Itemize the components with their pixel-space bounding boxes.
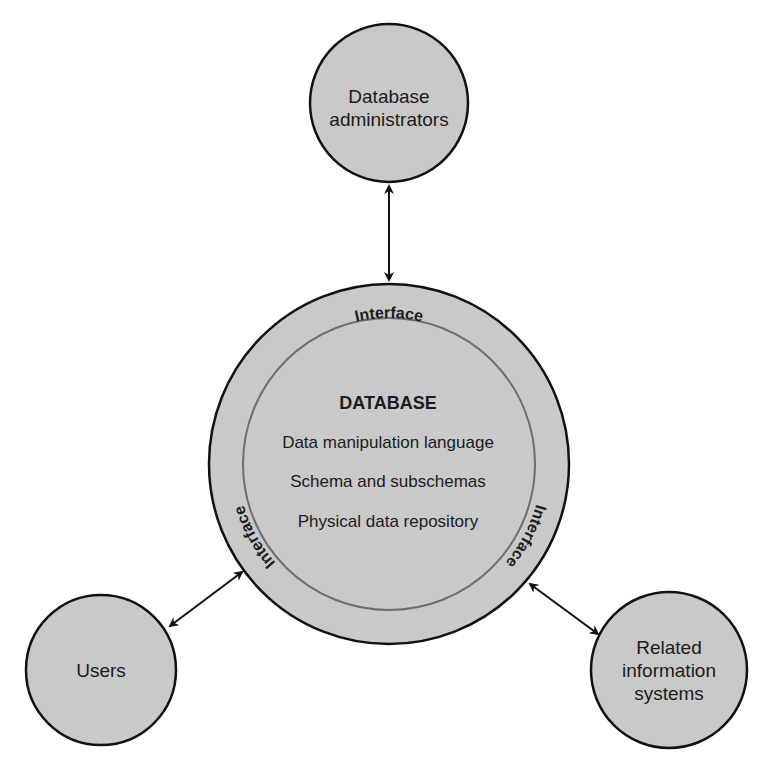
node-database-administrators: Database administrators: [310, 24, 468, 182]
admins-line1: Database: [348, 86, 429, 107]
node-related-information-systems: Related information systems: [591, 592, 747, 748]
database-diagram: Database administrators Users Related in…: [0, 0, 766, 765]
database-circle: Interface Interface Interface DATABASE D…: [209, 284, 569, 644]
related-line3: systems: [634, 683, 704, 704]
database-item-dml: Data manipulation language: [282, 433, 494, 452]
related-line1: Related: [636, 637, 702, 658]
database-title: DATABASE: [339, 393, 436, 413]
users-label: Users: [76, 660, 126, 681]
node-users: Users: [26, 595, 176, 745]
admins-line2: administrators: [329, 109, 448, 130]
arrow-users-database: [170, 572, 242, 626]
arrow-database-related: [530, 584, 598, 634]
related-line2: information: [622, 660, 716, 681]
database-item-schema: Schema and subschemas: [290, 472, 486, 491]
database-item-repository: Physical data repository: [298, 512, 479, 531]
